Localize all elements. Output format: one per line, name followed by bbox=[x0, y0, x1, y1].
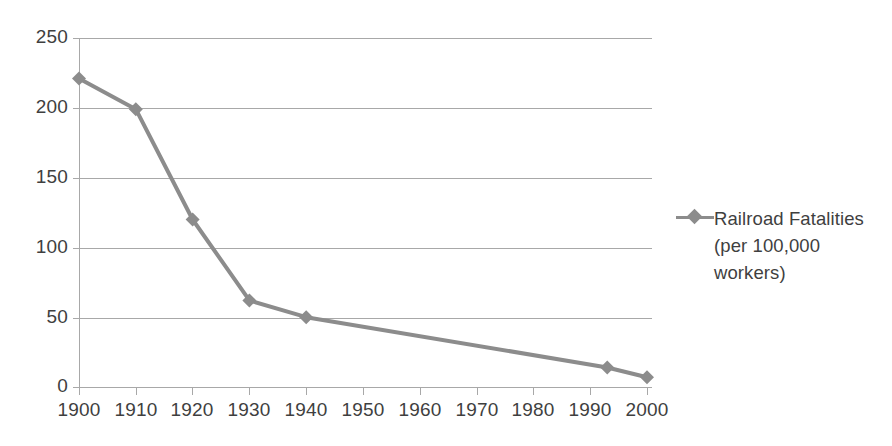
y-tick-100 bbox=[73, 248, 79, 249]
x-tick-label-1990: 1990 bbox=[560, 399, 620, 421]
y-axis-line bbox=[79, 38, 80, 388]
x-tick-1960 bbox=[420, 388, 421, 395]
y-tick-label-0: 0 bbox=[6, 375, 68, 397]
y-tick-200 bbox=[73, 108, 79, 109]
x-tick-label-1950: 1950 bbox=[333, 399, 393, 421]
x-tick-1980 bbox=[533, 388, 534, 395]
gridline-150 bbox=[79, 178, 652, 179]
x-tick-label-1980: 1980 bbox=[503, 399, 563, 421]
x-tick-1990 bbox=[590, 388, 591, 395]
line-chart: 250 200 150 100 50 0 1900 1910 1920 1930… bbox=[0, 0, 892, 446]
x-tick-label-1940: 1940 bbox=[276, 399, 336, 421]
x-tick-label-1920: 1920 bbox=[162, 399, 222, 421]
x-tick-label-1900: 1900 bbox=[49, 399, 109, 421]
x-tick-label-1930: 1930 bbox=[219, 399, 279, 421]
y-tick-150 bbox=[73, 178, 79, 179]
x-tick-label-1910: 1910 bbox=[106, 399, 166, 421]
x-axis-line bbox=[79, 387, 652, 388]
legend-label-line-3: workers) bbox=[714, 259, 864, 286]
x-tick-label-1960: 1960 bbox=[390, 399, 450, 421]
legend-line-diamond-marker-icon bbox=[676, 206, 714, 228]
gridline-100 bbox=[79, 248, 652, 249]
x-tick-1910 bbox=[136, 388, 137, 395]
y-tick-label-50: 50 bbox=[6, 306, 68, 328]
x-tick-1900 bbox=[79, 388, 80, 395]
legend-label-line-1: Railroad Fatalities bbox=[714, 205, 864, 232]
x-tick-1970 bbox=[477, 388, 478, 395]
x-tick-2000 bbox=[647, 388, 648, 395]
x-tick-label-1970: 1970 bbox=[447, 399, 507, 421]
y-tick-label-200: 200 bbox=[6, 96, 68, 118]
x-tick-1930 bbox=[249, 388, 250, 395]
gridline-250 bbox=[79, 38, 652, 39]
plot-area bbox=[79, 38, 652, 387]
y-tick-250 bbox=[73, 38, 79, 39]
y-tick-50 bbox=[73, 318, 79, 319]
x-tick-1920 bbox=[192, 388, 193, 395]
x-tick-label-2000: 2000 bbox=[617, 399, 677, 421]
y-tick-label-150: 150 bbox=[6, 166, 68, 188]
x-tick-1950 bbox=[363, 388, 364, 395]
y-tick-label-250: 250 bbox=[6, 26, 68, 48]
legend-label: Railroad Fatalities (per 100,000 workers… bbox=[714, 205, 864, 286]
x-tick-1940 bbox=[306, 388, 307, 395]
gridline-200 bbox=[79, 108, 652, 109]
legend-label-line-2: (per 100,000 bbox=[714, 232, 864, 259]
gridline-50 bbox=[79, 318, 652, 319]
legend: Railroad Fatalities (per 100,000 workers… bbox=[676, 205, 886, 286]
y-tick-label-100: 100 bbox=[6, 236, 68, 258]
